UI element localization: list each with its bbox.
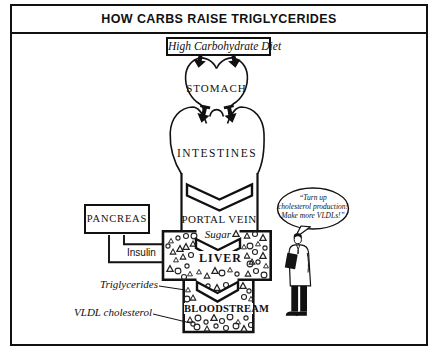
portal-vein-label: PORTAL VEIN	[169, 213, 269, 225]
vldl-cholesterol-label: VLDL cholesterol	[74, 306, 152, 318]
insulin-label: Insulin	[127, 247, 156, 258]
figure-title: HOW CARBS RAISE TRIGLYCERIDES	[12, 6, 426, 32]
figure-header: HOW CARBS RAISE TRIGLYCERIDES	[12, 6, 426, 34]
triglycerides-label: Triglycerides	[100, 278, 158, 290]
liver-label: LIVER	[197, 251, 244, 266]
pancreas-box: PANCREAS	[84, 204, 150, 234]
speech-bubble-text: “Turn up cholesterol production! Make mo…	[268, 193, 358, 220]
stomach-label: STOMACH	[176, 82, 257, 94]
figure-canvas: HOW CARBS RAISE TRIGLYCERIDES High Carbo…	[0, 0, 438, 352]
intestines-label: INTESTINES	[167, 147, 267, 159]
speech-line-1: “Turn up	[268, 193, 358, 202]
bloodstream-label: BLOODSTREAM	[184, 303, 253, 314]
speech-line-3: Make more VLDLs!”	[268, 211, 358, 220]
sugar-label: Sugar	[196, 228, 240, 240]
speech-line-2: cholesterol production!	[268, 202, 358, 211]
diet-box: High Carbohydrate Diet	[166, 37, 271, 56]
